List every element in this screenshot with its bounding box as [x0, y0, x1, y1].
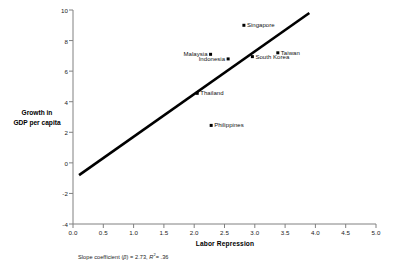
x-tick-label: 4.0	[311, 229, 320, 236]
x-tick-label: 1.0	[129, 229, 138, 236]
data-point-marker	[196, 92, 199, 95]
y-axis-title-line2: GDP per capita	[13, 119, 60, 126]
y-tick-label: -2	[48, 190, 68, 197]
x-tick-label: 1.5	[159, 229, 168, 236]
data-point-label: South Korea	[255, 54, 289, 60]
y-axis-title-line1: Growth in	[22, 109, 53, 116]
x-tick-label: 0.5	[99, 229, 108, 236]
data-point-label: Thailand	[200, 90, 223, 96]
y-tick-label: 10	[48, 7, 68, 14]
data-point-marker	[251, 55, 254, 58]
y-tick-label: -4	[48, 221, 68, 228]
data-point-label: Indonesia	[199, 56, 225, 62]
data-point-marker	[227, 57, 230, 60]
annotation-suffix: = .36	[156, 254, 169, 260]
x-tick-label: 4.5	[341, 229, 350, 236]
x-tick-label: 3.0	[250, 229, 259, 236]
x-tick-label: 2.0	[190, 229, 199, 236]
x-tick-label: 5.0	[372, 229, 381, 236]
y-tick-label: 0	[48, 159, 68, 166]
data-point-marker	[210, 124, 213, 127]
data-point-label: Singapore	[247, 22, 275, 28]
y-tick-label: 6	[48, 68, 68, 75]
x-tick-label: 2.5	[220, 229, 229, 236]
regression-line	[79, 13, 309, 175]
annotation-mid: ) = 2.73,	[127, 254, 150, 260]
y-axis-title: Growth in GDP per capita	[4, 108, 70, 127]
x-tick-label: 3.5	[281, 229, 290, 236]
x-tick-label: 0.0	[69, 229, 78, 236]
x-axis-title: Labor Repression	[196, 240, 254, 247]
y-tick-label: 4	[48, 98, 68, 105]
y-tick-label: 2	[48, 129, 68, 136]
data-point-label: Philippines	[214, 122, 244, 128]
slope-coefficient-annotation: Slope coefficient (β) = 2.73, R2= .36	[78, 252, 169, 260]
data-point-marker	[242, 24, 245, 27]
annotation-prefix: Slope coefficient (	[78, 254, 123, 260]
data-markers	[196, 24, 280, 127]
x-axis-ticks	[73, 224, 376, 228]
scatter-chart: 1086420-2-4 0.00.51.01.52.02.53.03.54.04…	[0, 0, 397, 279]
y-tick-label: 8	[48, 37, 68, 44]
